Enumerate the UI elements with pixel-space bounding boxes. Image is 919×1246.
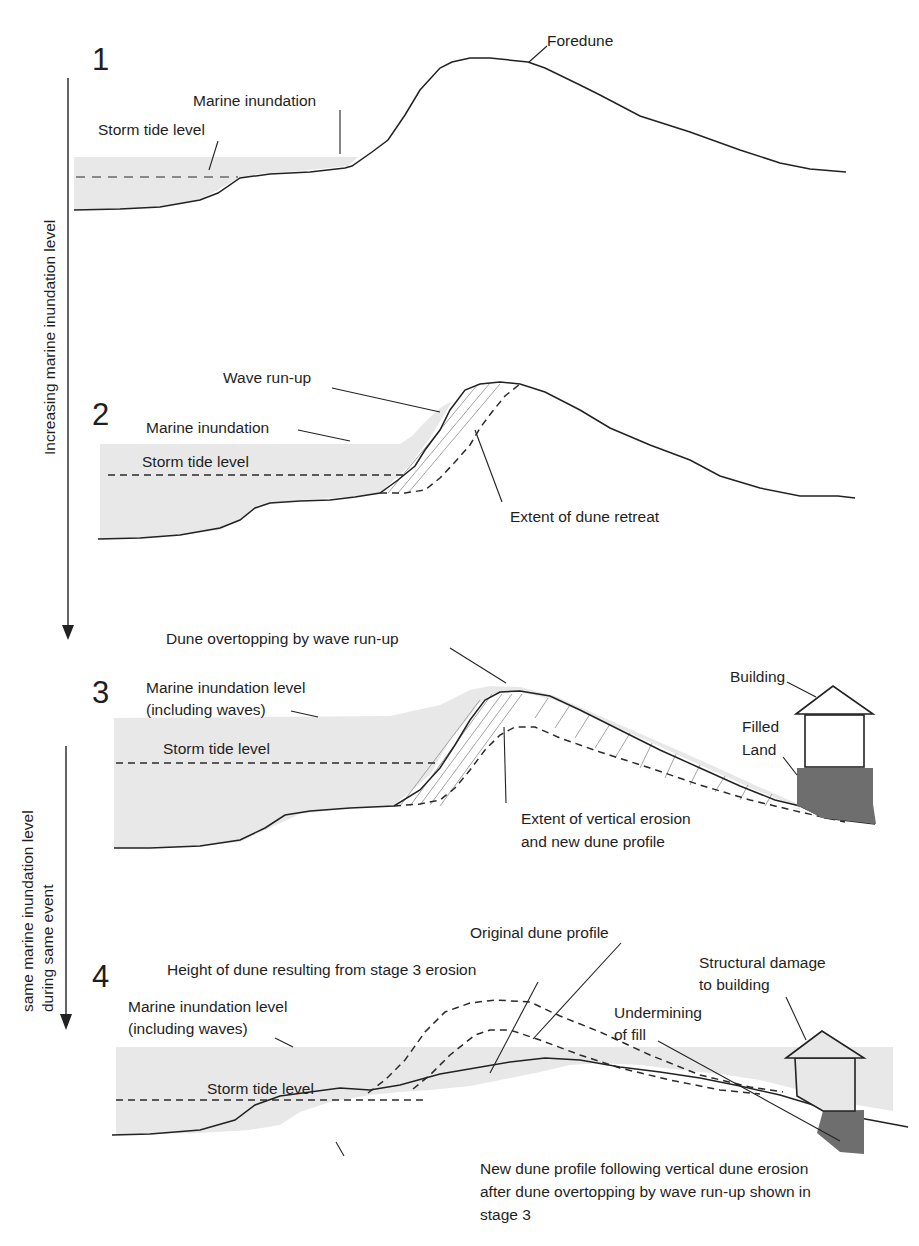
label-original-dune-profile: Original dune profile <box>470 924 609 941</box>
label-new-profile-l1: New dune profile following vertical dune… <box>480 1160 808 1177</box>
label-storm-tide-level: Storm tide level <box>163 740 270 757</box>
label-marine-inundation-l1: Marine inundation level <box>146 679 305 696</box>
stage-number-4: 4 <box>92 959 109 994</box>
label-structural-damage-l2: to building <box>699 976 770 993</box>
label-marine-inundation-l2: (including waves) <box>146 701 266 718</box>
dune-erosion-diagram: Increasing marine inundation level same … <box>0 0 919 1246</box>
label-new-profile-l3: stage 3 <box>480 1206 531 1223</box>
retreat-hatching <box>380 382 505 494</box>
label-extent-dune-retreat: Extent of dune retreat <box>510 508 660 525</box>
label-filled-land-l1: Filled <box>742 718 779 735</box>
stage-number-1: 1 <box>92 42 109 77</box>
side-arrow-same-event <box>60 746 72 1030</box>
stage-4: 4 Original dune profile Height of dune r… <box>92 924 908 1223</box>
building <box>796 686 876 824</box>
side-label-same-line1: same marine inundation level <box>19 810 36 1012</box>
label-vertical-erosion-l1: Extent of vertical erosion <box>521 810 691 827</box>
label-storm-tide-level: Storm tide level <box>98 121 205 138</box>
stage-number-2: 2 <box>92 397 109 432</box>
damaged-walls <box>795 1058 855 1111</box>
label-storm-tide-level: Storm tide level <box>142 453 249 470</box>
building-roof <box>796 686 873 714</box>
building-walls <box>805 715 864 767</box>
stage-2: 2 Wave run-up Marine inundation Storm ti… <box>92 369 855 539</box>
stage-1: 1 Foredune Marine inundation Storm tide … <box>74 32 846 210</box>
label-undermining-l2: of fill <box>614 1026 646 1043</box>
label-storm-tide-level: Storm tide level <box>207 1080 314 1097</box>
label-building: Building <box>730 668 785 685</box>
label-filled-land-l2: Land <box>742 741 776 758</box>
label-height-of-dune: Height of dune resulting from stage 3 er… <box>167 961 476 978</box>
label-marine-inundation-l1: Marine inundation level <box>128 998 287 1015</box>
label-structural-damage-l1: Structural damage <box>699 954 826 971</box>
side-label-increasing: Increasing marine inundation level <box>41 220 58 455</box>
water-area <box>74 157 358 210</box>
side-arrow-increasing <box>62 78 74 640</box>
label-undermining-l1: Undermining <box>614 1004 702 1021</box>
building-roof <box>786 1031 864 1058</box>
label-new-profile-l2: after dune overtopping by wave run-up sh… <box>480 1183 811 1200</box>
stage-number-3: 3 <box>92 675 109 710</box>
label-marine-inundation-l2: (including waves) <box>128 1020 248 1037</box>
side-label-same-line2: during same event <box>39 884 56 1012</box>
label-marine-inundation: Marine inundation <box>146 419 269 436</box>
label-dune-overtopping: Dune overtopping by wave run-up <box>166 630 399 647</box>
label-marine-inundation: Marine inundation <box>193 92 316 109</box>
label-foredune: Foredune <box>547 32 613 49</box>
label-vertical-erosion-l2: and new dune profile <box>521 833 665 850</box>
stage-3: 3 <box>92 630 876 850</box>
label-wave-run-up: Wave run-up <box>223 369 311 386</box>
